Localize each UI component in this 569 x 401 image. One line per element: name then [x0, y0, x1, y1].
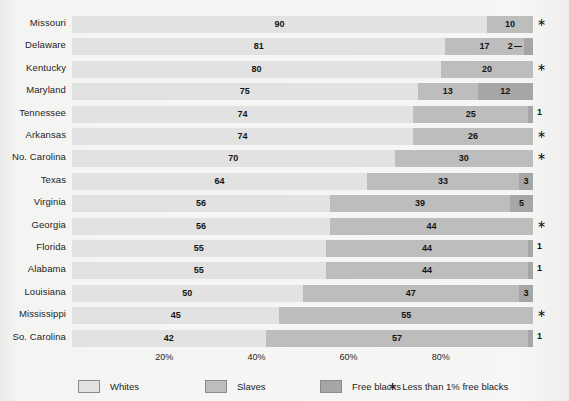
x-axis-tick-label: 60% — [340, 352, 358, 362]
bar-row-label: Missouri — [0, 17, 66, 28]
stacked-bar: 64333 — [72, 173, 533, 190]
bar-row: Kentucky8020∗ — [0, 59, 569, 81]
segment-whites: 75 — [72, 83, 418, 100]
stacked-bar: 9010 — [72, 16, 533, 33]
legend-item-label: Free blacks — [352, 381, 401, 392]
bar-row: Delaware81172 — [0, 36, 569, 58]
segment-whites: 90 — [72, 16, 487, 33]
segment-value-label: 42 — [164, 334, 174, 343]
segment-free-blacks: 5 — [510, 195, 533, 212]
bar-row: No. Carolina7030∗ — [0, 148, 569, 170]
segment-value-label: 25 — [466, 110, 476, 119]
segment-value-label: 2 — [508, 42, 513, 51]
bar-row-label: Texas — [0, 174, 66, 185]
segment-value-label: 70 — [228, 154, 238, 163]
segment-slaves: 25 — [413, 106, 528, 123]
x-axis-tick-label: 80% — [432, 352, 450, 362]
bar-row: Louisiana50473 — [0, 283, 569, 305]
segment-free-blacks — [528, 106, 533, 123]
segment-whites: 56 — [72, 195, 330, 212]
stacked-bar: 7426 — [72, 128, 533, 145]
segment-slaves: 33 — [367, 173, 519, 190]
legend-footnote-label: Less than 1% free blacks — [402, 381, 508, 392]
row-asterisk-icon: ∗ — [537, 219, 551, 230]
legend: ∗ Less than 1% free blacks WhitesSlavesF… — [0, 374, 569, 401]
segment-slaves: 55 — [279, 307, 533, 324]
segment-value-label: 3 — [524, 289, 529, 298]
segment-slaves: 57 — [266, 330, 529, 347]
row-asterisk-icon: ∗ — [537, 151, 551, 162]
segment-value-label: 55 — [401, 311, 411, 320]
segment-value-label: 12 — [500, 87, 510, 96]
segment-slaves: 26 — [413, 128, 533, 145]
segment-slaves: 47 — [303, 285, 520, 302]
stacked-bar: 751312 — [72, 83, 533, 100]
bar-row: Maryland751312 — [0, 81, 569, 103]
segment-free-blacks: 3 — [519, 173, 533, 190]
bar-row-label: So. Carolina — [0, 331, 66, 342]
bar-row: Tennessee74251 — [0, 104, 569, 126]
bar-row-label: Virginia — [0, 196, 66, 207]
legend-item-label: Slaves — [237, 381, 266, 392]
segment-free-blacks: 12 — [478, 83, 533, 100]
bar-row-label: Alabama — [0, 263, 66, 274]
segment-slaves: 20 — [441, 61, 533, 78]
segment-slaves: 44 — [326, 240, 529, 257]
legend-item: Free blacks — [320, 379, 401, 393]
segment-value-label: 90 — [274, 20, 284, 29]
stacked-bar: 7425 — [72, 106, 533, 123]
segment-value-label: 13 — [443, 87, 453, 96]
legend-footnote: ∗ Less than 1% free blacks — [388, 379, 508, 393]
segment-value-label: 33 — [438, 177, 448, 186]
plot-area: Missouri9010∗Delaware81172Kentucky8020∗M… — [0, 0, 569, 368]
x-axis-tick-label: 20% — [155, 352, 173, 362]
segment-whites: 55 — [72, 262, 326, 279]
stacked-bar: 4257 — [72, 330, 533, 347]
segment-value-label: 45 — [171, 311, 181, 320]
bar-row-label: Arkansas — [0, 129, 66, 140]
segment-whites: 45 — [72, 307, 279, 324]
segment-whites: 80 — [72, 61, 441, 78]
bar-row: Mississippi4555∗ — [0, 305, 569, 327]
segment-whites: 50 — [72, 285, 303, 302]
segment-value-label: 17 — [480, 42, 490, 51]
legend-item: Slaves — [205, 379, 266, 393]
segment-value-label: 55 — [194, 244, 204, 253]
stacked-bar: 7030 — [72, 150, 533, 167]
row-free-blacks-note: 1 — [537, 263, 551, 274]
row-asterisk-icon: ∗ — [537, 129, 551, 140]
segment-slaves: 10 — [487, 16, 533, 33]
stacked-bar: 5544 — [72, 262, 533, 279]
segment-value-label: 80 — [251, 65, 261, 74]
stacked-bar: 56395 — [72, 195, 533, 212]
row-asterisk-icon: ∗ — [537, 17, 551, 28]
stacked-bar: 5644 — [72, 218, 533, 235]
legend-swatch-icon — [205, 380, 227, 393]
x-axis-tick-label: 40% — [247, 352, 265, 362]
segment-value-label: 26 — [468, 132, 478, 141]
segment-whites: 64 — [72, 173, 367, 190]
bar-row-label: Delaware — [0, 39, 66, 50]
row-free-blacks-note: 1 — [537, 331, 551, 342]
segment-value-label: 47 — [406, 289, 416, 298]
bar-row: Alabama55441 — [0, 260, 569, 282]
segment-whites: 42 — [72, 330, 266, 347]
bar-row-label: Tennessee — [0, 107, 66, 118]
callout-leader-line — [514, 46, 522, 47]
bar-row: Missouri9010∗ — [0, 14, 569, 36]
segment-free-blacks — [528, 240, 533, 257]
bar-row-label: Maryland — [0, 84, 66, 95]
segment-slaves: 44 — [326, 262, 529, 279]
chart-root: Missouri9010∗Delaware81172Kentucky8020∗M… — [0, 0, 569, 401]
bar-row: Virginia56395 — [0, 193, 569, 215]
segment-free-blacks: 3 — [519, 285, 533, 302]
bar-row-label: Georgia — [0, 219, 66, 230]
row-free-blacks-note: 1 — [537, 241, 551, 252]
bar-row: Arkansas7426∗ — [0, 126, 569, 148]
segment-value-label: 57 — [392, 334, 402, 343]
segment-value-label: 30 — [459, 154, 469, 163]
segment-whites: 74 — [72, 106, 413, 123]
segment-value-label: 50 — [182, 289, 192, 298]
legend-swatch-icon — [320, 380, 342, 393]
bar-row: So. Carolina42571 — [0, 328, 569, 350]
